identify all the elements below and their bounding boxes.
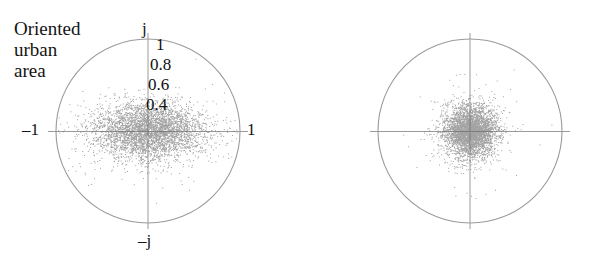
radial-tick-1-left: 1 <box>156 36 165 53</box>
scatter-plot-forest <box>303 0 607 267</box>
radial-tick-06-left: 0.6 <box>148 76 169 93</box>
panel-forest: Forest j –j –1 1 1 0.8 0.6 0.4 <box>303 0 607 267</box>
radial-tick-04-left: 0.4 <box>146 96 167 113</box>
figure-container: Oriented urban area j –j –1 1 1 0.8 0.6 … <box>0 0 607 267</box>
axis-label-bottom-minus-j-left: –j <box>138 232 151 249</box>
panel-oriented-urban-area: Oriented urban area j –j –1 1 1 0.8 0.6 … <box>0 0 303 267</box>
axis-label-left-minus-one-left: –1 <box>22 121 39 138</box>
radial-tick-08-left: 0.8 <box>150 56 171 73</box>
axis-label-right-one-left: 1 <box>247 121 256 138</box>
panel-title-oriented-urban-area: Oriented urban area <box>14 18 119 81</box>
axis-label-top-j-left: j <box>142 20 147 37</box>
